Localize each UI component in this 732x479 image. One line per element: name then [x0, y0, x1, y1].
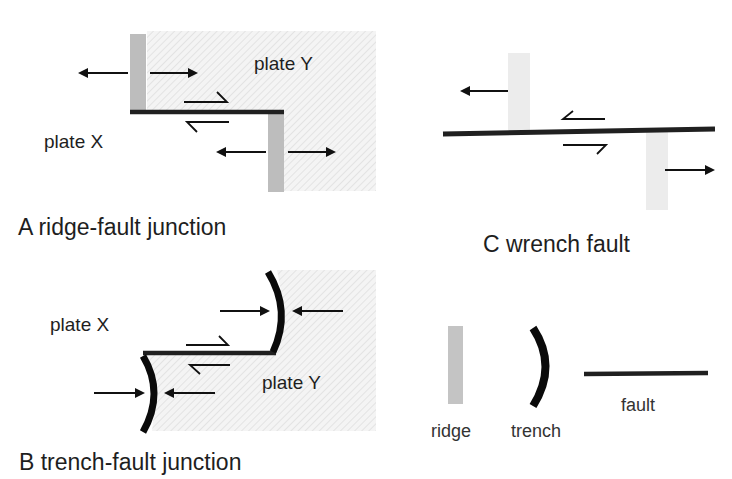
- legend-ridge-swatch: [448, 326, 463, 404]
- legend-fault-swatch: [584, 373, 708, 374]
- legend-fault-label: fault: [621, 395, 655, 415]
- plate-y-region: [145, 270, 376, 431]
- ridge-lower: [268, 113, 284, 192]
- caption-panel-a: A ridge-fault junction: [18, 214, 226, 240]
- tectonic-junctions-diagram: plate Y plate X A ridge-fault junction C…: [0, 0, 732, 479]
- panel-b-trench-fault-junction: plate X plate Y B trench-fault junction: [19, 270, 376, 475]
- caption-panel-b: B trench-fault junction: [19, 449, 241, 475]
- legend-ridge-label: ridge: [431, 421, 471, 441]
- trench-lower: [143, 356, 154, 432]
- ridge-upper: [508, 53, 530, 131]
- ridge-upper: [130, 34, 146, 111]
- half-arrow-right-icon: [563, 145, 606, 154]
- half-arrow-right-icon: [186, 336, 228, 345]
- label-plate-y: plate Y: [262, 372, 321, 393]
- trench-upper: [268, 272, 281, 352]
- panel-c-wrench-fault: C wrench fault: [443, 53, 715, 257]
- ridge-lower: [646, 132, 668, 210]
- wrench-fault: [443, 129, 715, 134]
- label-plate-x: plate X: [44, 131, 103, 152]
- label-plate-y: plate Y: [254, 53, 313, 74]
- caption-panel-c: C wrench fault: [483, 231, 631, 257]
- legend: ridge trench fault: [431, 326, 708, 441]
- legend-trench-label: trench: [511, 421, 561, 441]
- half-arrow-left-icon: [187, 122, 229, 132]
- label-plate-x: plate X: [50, 314, 109, 335]
- panel-a-ridge-fault-junction: plate Y plate X A ridge-fault junction: [18, 31, 376, 240]
- half-arrow-left-icon: [563, 111, 605, 119]
- legend-trench-swatch: [533, 328, 546, 406]
